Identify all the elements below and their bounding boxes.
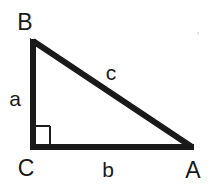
side-label-b: b bbox=[102, 159, 114, 180]
side-label-a: a bbox=[9, 88, 21, 109]
triangle-edge-hypotenuse-c bbox=[33, 41, 192, 147]
vertex-label-a: A bbox=[185, 159, 200, 182]
scan-speck bbox=[197, 32, 199, 35]
right-angle-marker-icon bbox=[34, 126, 50, 145]
side-label-c: c bbox=[106, 62, 117, 83]
right-triangle-figure: B C A a c b bbox=[0, 0, 217, 190]
vertex-label-b: B bbox=[17, 11, 32, 34]
vertex-label-c: C bbox=[18, 157, 35, 180]
